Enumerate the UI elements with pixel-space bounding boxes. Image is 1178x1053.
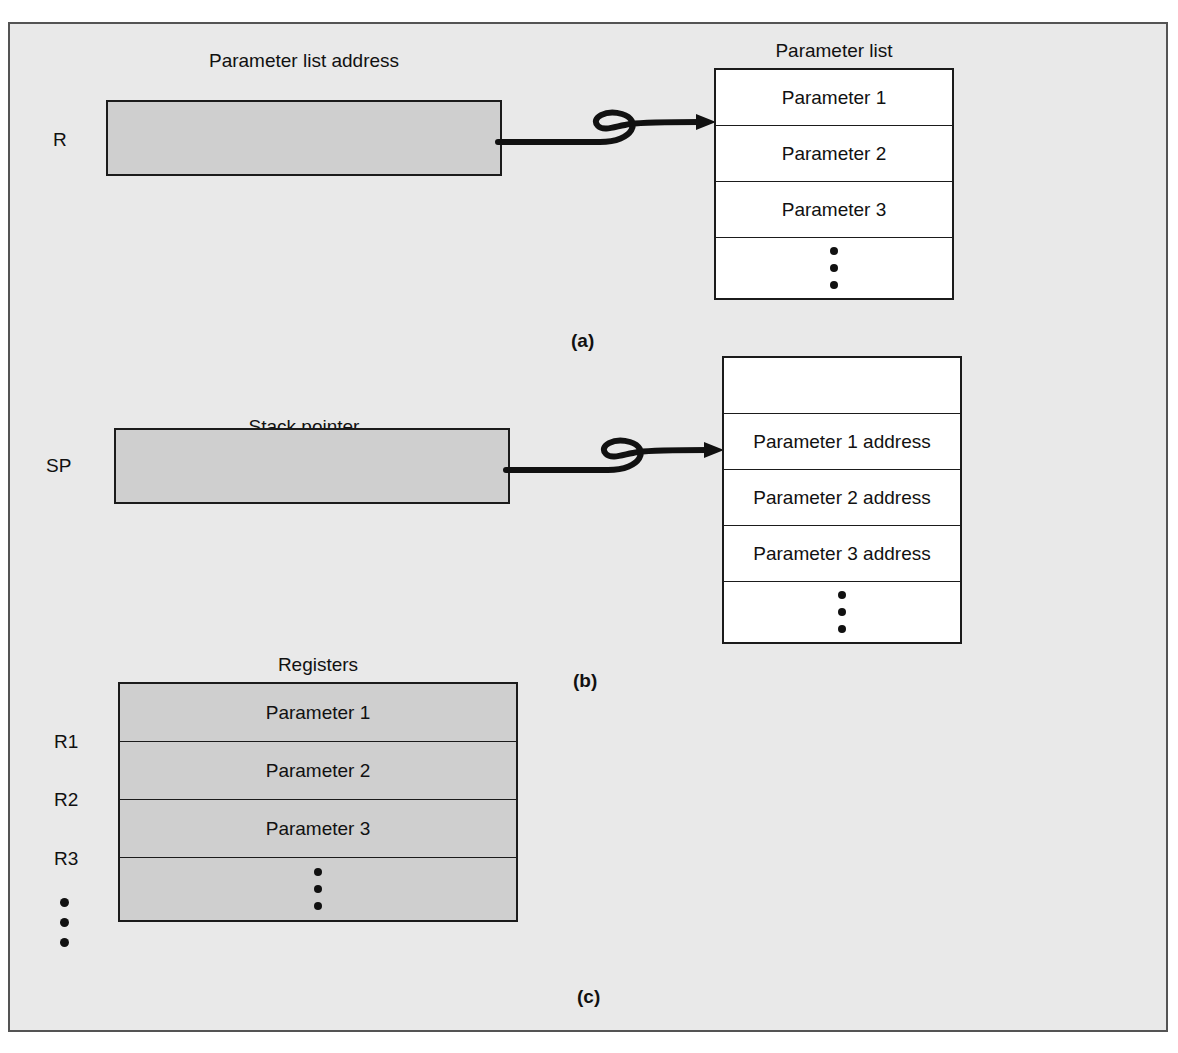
part-label-b: (b) [573,670,597,692]
figure-page: Parameter list address R Parameter list … [0,0,1178,1053]
part-a-register-bar [106,100,502,176]
cropped-text-strip [0,0,1178,14]
part-c-table: Parameter 1 Parameter 2 Parameter 3 [118,682,518,922]
table-row-ellipsis [120,858,516,920]
part-c-register-label-r1: R1 [54,731,78,753]
table-row: Parameter 3 [120,800,516,858]
table-row: Parameter 1 address [724,414,960,470]
part-a-table: Parameter 1 Parameter 2 Parameter 3 [714,68,954,300]
figure-frame: Parameter list address R Parameter list … [8,22,1168,1032]
part-c-register-label-r2: R2 [54,789,78,811]
table-row [724,358,960,414]
part-label-c: (c) [577,986,600,1008]
table-row: Parameter 3 [716,182,952,238]
part-c-register-label-ellipsis-icon [60,898,69,947]
part-a-table-caption: Parameter list [714,40,954,62]
vertical-ellipsis-icon [314,868,322,910]
part-label-a: (a) [571,330,594,352]
table-row: Parameter 1 [716,70,952,126]
part-b-table: Parameter 1 address Parameter 2 address … [722,356,962,644]
table-row: Parameter 2 [120,742,516,800]
part-b-pointer-arrow [502,426,742,496]
table-row-ellipsis [716,238,952,298]
part-c-register-label-r3: R3 [54,848,78,870]
part-a-pointer-arrow [494,98,734,168]
vertical-ellipsis-icon [830,247,838,289]
vertical-ellipsis-icon [838,591,846,633]
table-row: Parameter 1 [120,684,516,742]
table-row: Parameter 2 address [724,470,960,526]
part-a-register-caption: Parameter list address [104,50,504,72]
part-b-register-label: SP [46,455,71,477]
part-c-table-caption: Registers [118,654,518,676]
cropped-text [12,0,17,4]
part-b-register-bar [114,428,510,504]
table-row: Parameter 2 [716,126,952,182]
table-row: Parameter 3 address [724,526,960,582]
table-row-ellipsis [724,582,960,642]
part-a-register-label: R [53,129,67,151]
